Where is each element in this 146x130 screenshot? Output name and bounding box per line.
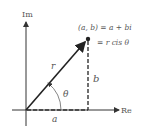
complex-plane-diagram: Im Re r θ a b (a, b) = a + bi = r cis θ	[0, 0, 146, 130]
vector-r-label: r	[51, 61, 56, 71]
re-axis-label: Re	[121, 106, 132, 115]
im-axis-label: Im	[22, 10, 33, 19]
angle-arc	[48, 83, 61, 110]
real-part-label: a	[52, 114, 57, 124]
vector-r	[26, 42, 85, 110]
angle-theta-label: θ	[63, 89, 69, 99]
point-ab	[86, 37, 90, 41]
imag-part-label: b	[93, 73, 99, 84]
equation-line-2: = r cis θ	[97, 38, 129, 47]
equation-line-1: (a, b) = a + bi	[78, 23, 132, 32]
